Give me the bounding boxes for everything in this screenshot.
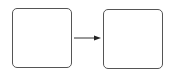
arrow-connector bbox=[0, 0, 169, 74]
arrowhead-icon bbox=[94, 36, 101, 41]
